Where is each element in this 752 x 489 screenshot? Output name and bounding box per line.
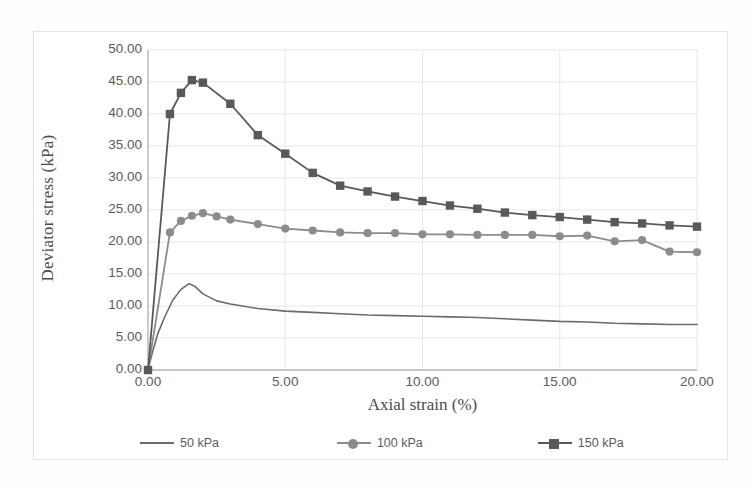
data-point-marker bbox=[638, 236, 646, 244]
y-tick-label: 30.00 bbox=[84, 169, 142, 184]
x-axis-tick-labels: 0.005.0010.0015.0020.00 bbox=[0, 374, 752, 394]
data-point-marker bbox=[213, 212, 221, 220]
data-point-marker bbox=[188, 76, 196, 84]
y-tick-label: 25.00 bbox=[84, 201, 142, 216]
data-point-marker bbox=[446, 230, 454, 238]
data-point-marker bbox=[281, 149, 289, 157]
y-tick-label: 15.00 bbox=[84, 265, 142, 280]
y-axis-title: Deviator stress (kPa) bbox=[38, 98, 62, 318]
data-point-marker bbox=[226, 100, 234, 108]
data-point-marker bbox=[177, 89, 185, 97]
data-point-marker bbox=[226, 216, 234, 224]
legend-label: 50 kPa bbox=[180, 436, 219, 450]
data-point-marker bbox=[281, 224, 289, 232]
y-tick-label: 35.00 bbox=[84, 137, 142, 152]
legend-swatch-line-square-icon bbox=[538, 442, 572, 444]
data-point-marker bbox=[693, 248, 701, 256]
data-point-marker bbox=[556, 232, 564, 240]
data-point-marker bbox=[583, 215, 591, 223]
data-point-marker bbox=[336, 181, 344, 189]
data-point-marker bbox=[528, 231, 536, 239]
data-point-marker bbox=[446, 201, 454, 209]
y-tick-label: 40.00 bbox=[84, 105, 142, 120]
x-tick-label: 10.00 bbox=[388, 374, 458, 389]
data-point-marker bbox=[610, 218, 618, 226]
y-tick-label: 45.00 bbox=[84, 73, 142, 88]
data-point-marker bbox=[254, 220, 262, 228]
data-point-marker bbox=[556, 213, 564, 221]
data-point-marker bbox=[363, 187, 371, 195]
y-tick-label: 5.00 bbox=[84, 329, 142, 344]
data-point-marker bbox=[391, 229, 399, 237]
x-axis-title: Axial strain (%) bbox=[148, 395, 697, 415]
data-point-marker bbox=[199, 78, 207, 86]
data-point-marker bbox=[177, 217, 185, 225]
x-tick-label: 15.00 bbox=[525, 374, 595, 389]
data-point-marker bbox=[144, 366, 152, 374]
legend-item-100kpa[interactable]: 100 kPa bbox=[337, 436, 423, 450]
data-point-marker bbox=[501, 208, 509, 216]
data-point-marker bbox=[418, 230, 426, 238]
y-tick-label: 50.00 bbox=[84, 41, 142, 56]
data-point-marker bbox=[693, 222, 701, 230]
chart-legend: 50 kPa 100 kPa 150 kPa bbox=[140, 432, 640, 454]
legend-item-50kpa[interactable]: 50 kPa bbox=[140, 436, 219, 450]
data-point-marker bbox=[473, 231, 481, 239]
data-point-marker bbox=[583, 232, 591, 240]
data-point-marker bbox=[638, 219, 646, 227]
chart-root: 0.005.0010.0015.0020.0025.0030.0035.0040… bbox=[0, 0, 752, 489]
data-point-marker bbox=[665, 221, 673, 229]
legend-label: 150 kPa bbox=[578, 436, 624, 450]
data-point-marker bbox=[166, 110, 174, 118]
data-point-marker bbox=[528, 211, 536, 219]
data-point-marker bbox=[166, 228, 174, 236]
data-point-marker bbox=[188, 212, 196, 220]
data-point-marker bbox=[501, 231, 509, 239]
data-point-marker bbox=[473, 205, 481, 213]
x-tick-label: 0.00 bbox=[113, 374, 183, 389]
legend-label: 100 kPa bbox=[377, 436, 423, 450]
data-point-marker bbox=[665, 248, 673, 256]
data-point-marker bbox=[309, 169, 317, 177]
data-point-marker bbox=[418, 197, 426, 205]
y-tick-label: 10.00 bbox=[84, 297, 142, 312]
legend-swatch-line-icon bbox=[140, 442, 174, 444]
legend-item-150kpa[interactable]: 150 kPa bbox=[538, 436, 624, 450]
data-point-marker bbox=[364, 229, 372, 237]
y-tick-label: 20.00 bbox=[84, 233, 142, 248]
legend-swatch-line-circle-icon bbox=[337, 442, 371, 444]
data-point-marker bbox=[336, 228, 344, 236]
data-point-marker bbox=[254, 131, 262, 139]
data-point-marker bbox=[611, 237, 619, 245]
x-tick-label: 5.00 bbox=[250, 374, 320, 389]
x-tick-label: 20.00 bbox=[662, 374, 732, 389]
data-point-marker bbox=[199, 209, 207, 217]
data-point-marker bbox=[309, 226, 317, 234]
y-axis-tick-labels: 0.005.0010.0015.0020.0025.0030.0035.0040… bbox=[84, 0, 142, 489]
data-point-marker bbox=[391, 192, 399, 200]
